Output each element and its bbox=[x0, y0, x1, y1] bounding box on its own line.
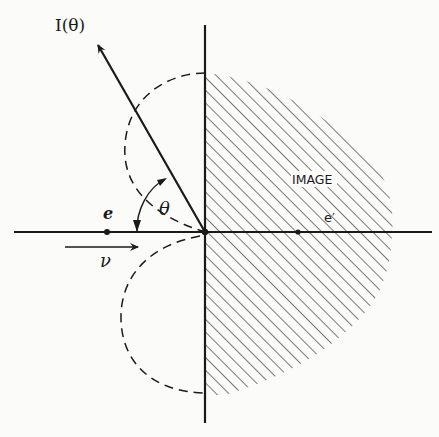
intensity-arrow bbox=[98, 45, 205, 232]
theta-arc-arrow-down-icon bbox=[133, 220, 141, 232]
image-charge-dot bbox=[295, 229, 300, 234]
intensity-label: I(θ) bbox=[55, 15, 85, 35]
radiation-diagram: I(θ) θ e e′ ν IMAGE bbox=[0, 0, 439, 437]
image-region-label: IMAGE bbox=[292, 172, 332, 187]
charge-dot bbox=[104, 229, 110, 235]
lower-radiation-lobe bbox=[121, 236, 205, 393]
theta-label: θ bbox=[159, 198, 170, 219]
velocity-label: ν bbox=[100, 250, 111, 271]
theta-arc-arrow-up-icon bbox=[157, 178, 167, 186]
origin-dot bbox=[202, 229, 208, 235]
image-charge-label: e′ bbox=[324, 210, 335, 225]
charge-label: e bbox=[103, 204, 113, 223]
